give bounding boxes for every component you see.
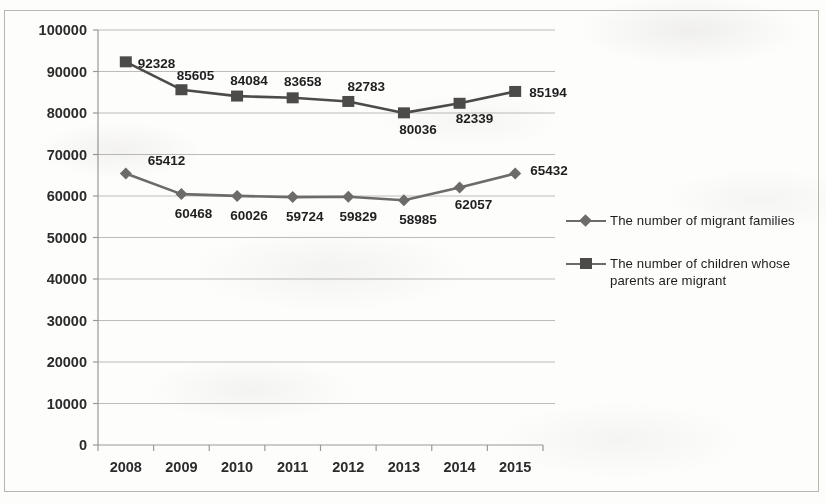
data-point-label: 59724 bbox=[286, 209, 324, 224]
data-point-marker bbox=[120, 56, 132, 67]
data-point-marker bbox=[231, 91, 243, 102]
data-point-label: 85605 bbox=[177, 68, 215, 83]
x-axis-tick-label: 2009 bbox=[165, 459, 197, 475]
y-axis-tick-label: 60000 bbox=[47, 188, 87, 204]
data-point-marker bbox=[231, 190, 243, 202]
x-axis-tick-label: 2011 bbox=[277, 459, 308, 475]
y-axis-labels-group: 0100002000030000400005000060000700008000… bbox=[39, 22, 87, 453]
data-point-label: 80036 bbox=[399, 122, 437, 137]
x-axis-labels-group: 20082009201020112012201320142015 bbox=[110, 459, 532, 475]
y-axis-tick-label: 30000 bbox=[47, 313, 87, 329]
y-axis-ticks-group bbox=[93, 30, 98, 445]
data-point-label: 62057 bbox=[455, 197, 493, 212]
y-axis-tick-label: 40000 bbox=[47, 271, 87, 287]
data-point-label: 59829 bbox=[340, 209, 378, 224]
legend-marker-diamond-icon bbox=[566, 213, 606, 229]
data-point-label: 82783 bbox=[348, 79, 386, 94]
data-point-label: 58985 bbox=[399, 212, 437, 227]
data-point-label: 65432 bbox=[530, 163, 568, 178]
legend-item-children-of-migrants[interactable]: The number of children whose parents are… bbox=[566, 255, 818, 289]
x-axis-tick-label: 2012 bbox=[332, 459, 364, 475]
data-point-marker bbox=[175, 188, 187, 200]
data-point-label: 92328 bbox=[138, 56, 176, 71]
data-point-marker bbox=[342, 96, 354, 107]
data-point-marker bbox=[120, 168, 132, 180]
data-point-marker bbox=[175, 84, 187, 95]
y-axis-tick-label: 80000 bbox=[47, 105, 87, 121]
y-axis-tick-label: 0 bbox=[79, 437, 87, 453]
data-point-label: 82339 bbox=[456, 111, 494, 126]
y-axis-tick-label: 100000 bbox=[39, 22, 87, 38]
data-point-marker bbox=[509, 168, 521, 180]
data-point-marker bbox=[454, 98, 466, 109]
data-point-marker bbox=[454, 182, 466, 194]
data-point-label: 65412 bbox=[148, 153, 186, 168]
y-axis-tick-label: 50000 bbox=[47, 230, 87, 246]
x-axis-tick-label: 2015 bbox=[499, 459, 531, 475]
y-axis-tick-label: 20000 bbox=[47, 354, 87, 370]
data-labels-group: 6541260468600265972459829589856205765432… bbox=[138, 56, 568, 227]
x-axis-ticks-group bbox=[98, 445, 543, 451]
data-point-marker bbox=[509, 86, 521, 97]
legend-marker-square-icon bbox=[566, 256, 606, 272]
x-axis-tick-label: 2014 bbox=[443, 459, 475, 475]
chart-container: 0100002000030000400005000060000700008000… bbox=[0, 0, 826, 504]
data-point-label: 85194 bbox=[529, 85, 567, 100]
x-axis-tick-label: 2010 bbox=[221, 459, 253, 475]
data-point-marker bbox=[287, 191, 299, 203]
data-point-label: 83658 bbox=[284, 74, 322, 89]
data-point-marker bbox=[287, 92, 299, 103]
data-point-label: 84084 bbox=[230, 73, 268, 88]
legend-label-migrant-families: The number of migrant families bbox=[610, 212, 795, 229]
data-point-marker bbox=[398, 107, 410, 118]
x-axis-tick-label: 2008 bbox=[110, 459, 142, 475]
y-axis-tick-label: 90000 bbox=[47, 64, 87, 80]
gridlines-group bbox=[98, 30, 555, 404]
x-axis-tick-label: 2013 bbox=[388, 459, 420, 475]
y-axis-tick-label: 70000 bbox=[47, 147, 87, 163]
legend-item-migrant-families[interactable]: The number of migrant families bbox=[566, 212, 818, 229]
chart-legend: The number of migrant families The numbe… bbox=[566, 212, 818, 315]
legend-label-children-of-migrants: The number of children whose parents are… bbox=[610, 255, 818, 289]
data-point-marker bbox=[342, 191, 354, 203]
data-point-label: 60026 bbox=[230, 208, 268, 223]
y-axis-tick-label: 10000 bbox=[47, 396, 87, 412]
data-point-label: 60468 bbox=[175, 206, 213, 221]
